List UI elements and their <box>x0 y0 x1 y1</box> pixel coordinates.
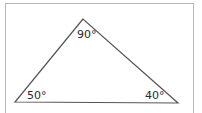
angle-label-bottom-right: 40° <box>145 89 165 102</box>
angle-label-bottom-left: 50° <box>27 89 47 102</box>
triangle-diagram: 90° 50° 40° <box>0 0 202 113</box>
angle-label-top: 90° <box>77 28 97 41</box>
